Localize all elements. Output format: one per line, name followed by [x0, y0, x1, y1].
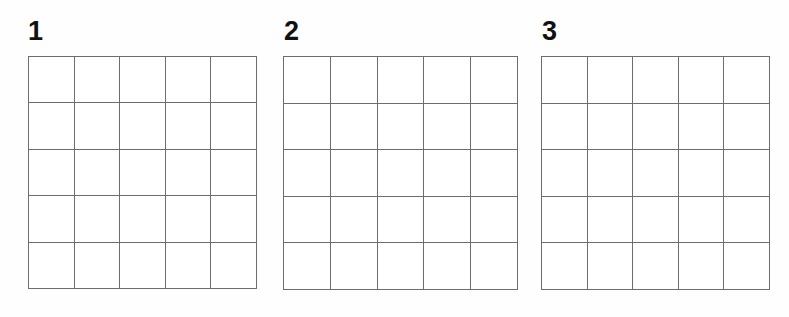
grid-cell[interactable] [471, 196, 518, 243]
grid-cell[interactable] [284, 150, 331, 197]
grid-cell[interactable] [724, 150, 770, 197]
grid-cell[interactable] [542, 103, 588, 150]
grid-cell[interactable] [633, 243, 679, 290]
grid-cell[interactable] [29, 196, 75, 242]
grid-cell[interactable] [587, 150, 633, 197]
grid-cell[interactable] [330, 57, 377, 104]
grid-cell[interactable] [724, 196, 770, 243]
grid-table-2[interactable] [283, 56, 518, 290]
grid-row [542, 103, 770, 150]
grid-cell[interactable] [211, 103, 257, 149]
grid-cell[interactable] [587, 196, 633, 243]
grid-table-3[interactable] [541, 56, 770, 290]
grid-row [542, 150, 770, 197]
grid-row [29, 103, 257, 149]
grid-row [29, 57, 257, 103]
grid-cell[interactable] [330, 243, 377, 290]
grid-cell[interactable] [424, 243, 471, 290]
grid-row [284, 103, 518, 150]
grid-cell[interactable] [587, 103, 633, 150]
grid-cell[interactable] [471, 243, 518, 290]
grid-cell[interactable] [424, 196, 471, 243]
grid-cell[interactable] [542, 196, 588, 243]
grid-row [284, 196, 518, 243]
grid-row [284, 150, 518, 197]
grid-cell[interactable] [165, 149, 211, 195]
grid-cell[interactable] [330, 103, 377, 150]
grid-table-1[interactable] [28, 56, 257, 289]
grid-cell[interactable] [724, 103, 770, 150]
grid-row [542, 57, 770, 104]
grid-body [542, 57, 770, 290]
grid-label-3: 3 [542, 18, 557, 45]
grid-body [29, 57, 257, 289]
grid-body [284, 57, 518, 290]
grid-cell[interactable] [424, 57, 471, 104]
grid-cell[interactable] [74, 149, 120, 195]
grid-cell[interactable] [165, 57, 211, 103]
grid-cell[interactable] [633, 57, 679, 104]
grid-cell[interactable] [330, 150, 377, 197]
grid-cell[interactable] [165, 242, 211, 288]
grid-cell[interactable] [120, 103, 166, 149]
grid-cell[interactable] [74, 242, 120, 288]
grid-cell[interactable] [471, 103, 518, 150]
grid-row [284, 243, 518, 290]
grid-row [29, 196, 257, 242]
grid-cell[interactable] [120, 149, 166, 195]
grid-cell[interactable] [678, 150, 724, 197]
grid-row [29, 149, 257, 195]
grid-cell[interactable] [471, 57, 518, 104]
grid-cell[interactable] [377, 243, 424, 290]
grid-cell[interactable] [120, 196, 166, 242]
grid-cell[interactable] [165, 103, 211, 149]
grid-cell[interactable] [542, 57, 588, 104]
grid-cell[interactable] [724, 243, 770, 290]
grid-cell[interactable] [29, 57, 75, 103]
grid-cell[interactable] [74, 57, 120, 103]
grid-cell[interactable] [377, 57, 424, 104]
grid-cell[interactable] [542, 243, 588, 290]
grid-cell[interactable] [211, 149, 257, 195]
grid-cell[interactable] [424, 150, 471, 197]
grid-cell[interactable] [424, 103, 471, 150]
grid-cell[interactable] [29, 242, 75, 288]
grid-cell[interactable] [29, 103, 75, 149]
grid-cell[interactable] [284, 57, 331, 104]
grid-cell[interactable] [284, 103, 331, 150]
grid-cell[interactable] [211, 196, 257, 242]
grid-cell[interactable] [165, 196, 211, 242]
grid-row [542, 243, 770, 290]
grid-cell[interactable] [633, 196, 679, 243]
grid-cell[interactable] [633, 103, 679, 150]
grid-cell[interactable] [471, 150, 518, 197]
grid-cell[interactable] [330, 196, 377, 243]
grid-cell[interactable] [284, 196, 331, 243]
grid-row [284, 57, 518, 104]
grid-cell[interactable] [587, 243, 633, 290]
grid-cell[interactable] [377, 150, 424, 197]
grid-cell[interactable] [29, 149, 75, 195]
grid-label-1: 1 [28, 18, 43, 45]
grid-row [542, 196, 770, 243]
grid-cell[interactable] [74, 196, 120, 242]
grid-row [29, 242, 257, 288]
grid-cell[interactable] [74, 103, 120, 149]
grid-cell[interactable] [377, 103, 424, 150]
grid-cell[interactable] [724, 57, 770, 104]
grid-label-2: 2 [284, 18, 299, 45]
grid-cell[interactable] [587, 57, 633, 104]
grid-cell[interactable] [678, 243, 724, 290]
worksheet-canvas: 1 2 3 [0, 0, 789, 317]
grid-cell[interactable] [284, 243, 331, 290]
grid-cell[interactable] [678, 196, 724, 243]
grid-cell[interactable] [211, 57, 257, 103]
grid-cell[interactable] [211, 242, 257, 288]
grid-cell[interactable] [633, 150, 679, 197]
grid-cell[interactable] [120, 57, 166, 103]
grid-cell[interactable] [678, 57, 724, 104]
grid-cell[interactable] [678, 103, 724, 150]
grid-cell[interactable] [542, 150, 588, 197]
grid-cell[interactable] [120, 242, 166, 288]
grid-cell[interactable] [377, 196, 424, 243]
